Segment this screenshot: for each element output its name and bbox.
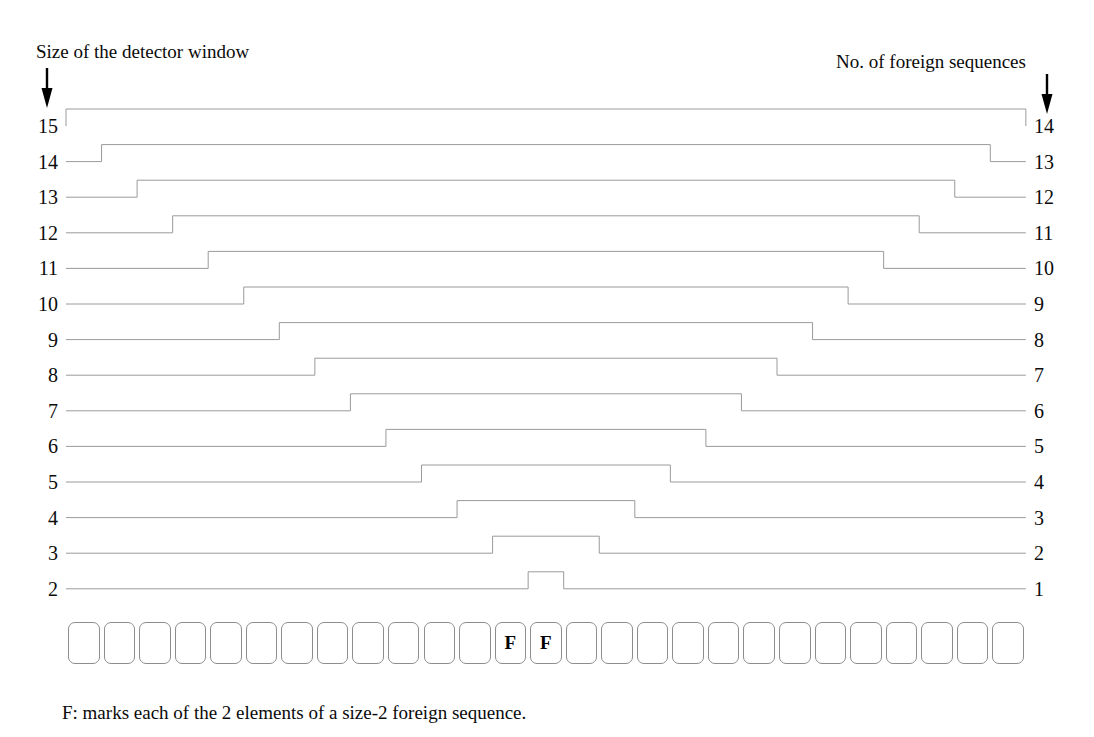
window-trace — [66, 287, 1026, 304]
sequence-cell — [104, 622, 136, 664]
figure-canvas: Size of the detector window No. of forei… — [0, 0, 1094, 737]
foreign-count-label: 2 — [1034, 543, 1092, 563]
sequence-cell-foreign: F — [495, 622, 527, 664]
foreign-count-label: 10 — [1034, 258, 1092, 278]
sequence-cell — [424, 622, 456, 664]
foreign-count-label: 3 — [1034, 508, 1092, 528]
sequence-cell — [175, 622, 207, 664]
sequence-cell — [992, 622, 1024, 664]
window-trace — [66, 358, 1026, 375]
window-size-label: 5 — [0, 472, 58, 492]
window-size-label: 13 — [0, 187, 58, 207]
foreign-count-label: 5 — [1034, 436, 1092, 456]
window-size-label: 9 — [0, 330, 58, 350]
sequence-cell — [317, 622, 349, 664]
window-size-label: 8 — [0, 365, 58, 385]
window-size-label: 15 — [0, 116, 58, 136]
window-trace — [66, 501, 1026, 518]
window-trace — [66, 465, 1026, 482]
sequence-cell — [352, 622, 384, 664]
foreign-count-label: 4 — [1034, 472, 1092, 492]
window-size-label: 2 — [0, 579, 58, 599]
sequence-cell — [281, 622, 313, 664]
window-trace — [66, 216, 1026, 233]
window-size-label: 3 — [0, 543, 58, 563]
window-size-label: 4 — [0, 508, 58, 528]
window-trace — [66, 109, 1026, 126]
foreign-count-label: 13 — [1034, 152, 1092, 172]
window-trace — [66, 536, 1026, 553]
sequence-cell — [388, 622, 420, 664]
sequence-cell — [779, 622, 811, 664]
sequence-cell — [921, 622, 953, 664]
sequence-cell — [139, 622, 171, 664]
foreign-count-label: 1 — [1034, 579, 1092, 599]
sequence-cell — [68, 622, 100, 664]
sequence-cell — [886, 622, 918, 664]
foreign-count-label: 14 — [1034, 116, 1092, 136]
window-size-label: 12 — [0, 223, 58, 243]
foreign-count-label: 8 — [1034, 330, 1092, 350]
foreign-count-label: 7 — [1034, 365, 1092, 385]
window-size-label: 6 — [0, 436, 58, 456]
sequence-cell — [210, 622, 242, 664]
window-trace — [66, 429, 1026, 446]
window-size-label: 11 — [0, 258, 58, 278]
sequence-cell — [815, 622, 847, 664]
sequence-cell — [672, 622, 704, 664]
foreign-count-label: 12 — [1034, 187, 1092, 207]
figure-footnote: F: marks each of the 2 elements of a siz… — [62, 703, 526, 724]
sequence-cell — [566, 622, 598, 664]
sequence-cell — [708, 622, 740, 664]
window-size-label: 10 — [0, 294, 58, 314]
sequence-cell — [850, 622, 882, 664]
window-trace — [66, 251, 1026, 268]
foreign-count-label: 9 — [1034, 294, 1092, 314]
window-size-label: 7 — [0, 401, 58, 421]
sequence-cell — [743, 622, 775, 664]
window-size-label: 14 — [0, 152, 58, 172]
window-trace — [66, 572, 1026, 589]
window-trace — [66, 145, 1026, 162]
sequence-cell — [637, 622, 669, 664]
sequence-cell — [957, 622, 989, 664]
sequence-cell-foreign: F — [530, 622, 562, 664]
sequence-cell — [601, 622, 633, 664]
window-trace — [66, 394, 1026, 411]
window-trace — [66, 323, 1026, 340]
sequence-cell — [246, 622, 278, 664]
sequence-cell — [459, 622, 491, 664]
foreign-count-label: 6 — [1034, 401, 1092, 421]
window-trace — [66, 180, 1026, 197]
foreign-count-label: 11 — [1034, 223, 1092, 243]
